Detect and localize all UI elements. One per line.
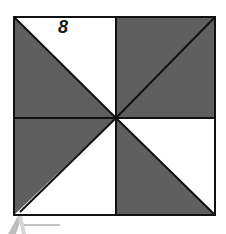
scan-artifact xyxy=(8,216,60,234)
figure-number-label: 8 xyxy=(58,17,68,38)
pinwheel-diagram xyxy=(0,0,226,234)
